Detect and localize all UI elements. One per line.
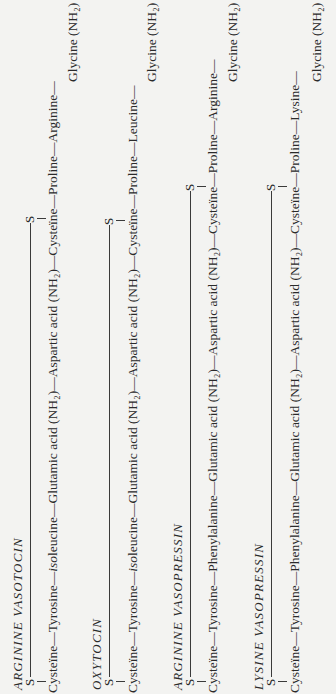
- disulfide-bridge-line: [190, 191, 191, 677]
- disulfide-bridge-line: [109, 225, 110, 677]
- bridge-tick-left: [278, 681, 287, 682]
- bridge-tick-right: [116, 220, 125, 221]
- hormone-title: ARGININE VASOTOCIN: [11, 537, 24, 690]
- terminal-residue: Glycine (NH₂): [66, 3, 80, 82]
- sulfur-atom-left: S: [264, 679, 277, 686]
- peptide-chain: Cysteïne—Tyrosine—Phenylalanine—Glutamic…: [288, 71, 302, 693]
- chain-rest: leucine—Glutamic acid (NH₂)—Aspartic aci…: [45, 81, 60, 556]
- sulfur-atom-left: S: [183, 679, 196, 686]
- terminal-residue: Glycine (NH₂): [310, 3, 324, 82]
- chain-start: Cysteïne—Tyrosine—: [45, 572, 60, 693]
- disulfide-bridge-line: [271, 191, 272, 677]
- peptide-chain: Cysteïne—Tyrosine—isoleucine—Glutamic ac…: [46, 81, 60, 693]
- sulfur-atom-left: S: [102, 679, 115, 686]
- sulfur-atom-right: S: [23, 216, 36, 223]
- terminal-residue: Glycine (NH₂): [145, 3, 159, 82]
- sulfur-atom-right: S: [264, 184, 277, 191]
- hormone-title: ARGININE VASOPRESSIN: [171, 523, 184, 690]
- chain-rest: leucine—Glutamic acid (NH₂)—Aspartic aci…: [125, 85, 140, 556]
- peptide-chain: Cysteïne—Tyrosine—isoleucine—Glutamic ac…: [126, 85, 140, 693]
- chain-italic-prefix: iso: [45, 556, 60, 572]
- sulfur-atom-right: S: [183, 184, 196, 191]
- bridge-tick-right: [278, 186, 287, 187]
- peptide-chain: Cysteïne—Tyrosine—Phenylalanine—Glutamic…: [206, 59, 220, 693]
- sulfur-atom-right: S: [102, 218, 115, 225]
- bridge-tick-left: [116, 681, 125, 682]
- chain-start: Cysteïne—Tyrosine—: [125, 572, 140, 693]
- hormone-title: LYSINE VASOPRESSIN: [252, 543, 265, 690]
- hormone-structures-page: ARGININE VASOTOCIN S S Cysteïne—Tyrosine…: [0, 0, 336, 694]
- sulfur-atom-left: S: [23, 679, 36, 686]
- disulfide-bridge-line: [30, 223, 31, 677]
- chain-italic-prefix: iso: [125, 556, 140, 572]
- terminal-residue: Glycine (NH₂): [226, 3, 240, 82]
